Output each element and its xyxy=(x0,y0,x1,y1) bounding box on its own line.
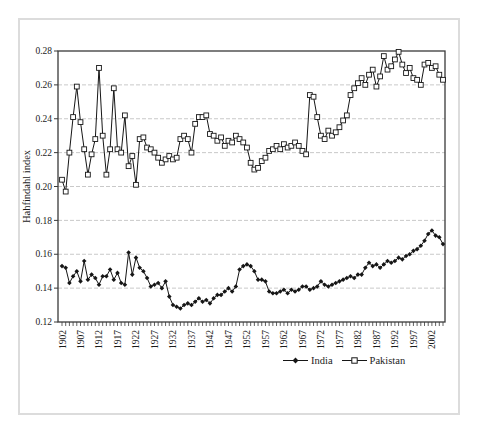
x-tick-label: 1992 xyxy=(390,330,400,349)
pakistan-marker xyxy=(378,74,383,79)
x-tick-label: 1937 xyxy=(187,330,197,349)
x-tick-label: 1977 xyxy=(335,330,345,349)
x-tick-label: 1957 xyxy=(261,330,271,349)
india-marker xyxy=(78,279,83,284)
pakistan-marker xyxy=(256,165,261,170)
pakistan-marker xyxy=(407,66,412,71)
pakistan-marker xyxy=(367,72,372,77)
pakistan-marker xyxy=(193,121,198,126)
pakistan-marker xyxy=(374,84,379,89)
pakistan-marker xyxy=(415,77,420,82)
pakistan-marker xyxy=(344,113,349,118)
pakistan-marker xyxy=(97,66,102,71)
pakistan-marker xyxy=(204,113,209,118)
pakistan-marker xyxy=(356,81,361,86)
pakistan-marker xyxy=(141,135,146,140)
pakistan-marker xyxy=(418,82,423,87)
pakistan-marker xyxy=(93,137,98,142)
pakistan-marker xyxy=(245,145,250,150)
pakistan-marker xyxy=(108,147,113,152)
pakistan-marker xyxy=(363,82,368,87)
pakistan-marker xyxy=(222,143,227,148)
pakistan-marker xyxy=(134,182,139,187)
pakistan-marker xyxy=(82,147,87,152)
india-marker xyxy=(359,272,364,277)
pakistan-marker xyxy=(315,115,320,120)
pakistan-marker xyxy=(381,54,386,59)
x-tick-label: 1987 xyxy=(372,330,382,349)
india-marker xyxy=(167,294,172,299)
x-tick-label: 1902 xyxy=(58,330,68,349)
pakistan-marker xyxy=(337,125,342,130)
pakistan-marker xyxy=(348,93,353,98)
y-tick-label: 0.22 xyxy=(35,148,52,158)
pakistan-marker xyxy=(100,133,105,138)
x-tick-label: 1927 xyxy=(150,330,160,349)
pakistan-marker xyxy=(211,133,216,138)
pakistan-marker xyxy=(322,137,327,142)
pakistan-marker xyxy=(333,130,338,135)
india-marker xyxy=(130,272,135,277)
pakistan-marker xyxy=(104,172,109,177)
y-tick-label: 0.12 xyxy=(35,317,52,327)
pakistan-marker xyxy=(278,147,283,152)
x-tick-label: 1982 xyxy=(353,330,363,349)
pakistan-marker xyxy=(404,71,409,76)
pakistan-marker xyxy=(219,135,224,140)
india-marker xyxy=(108,267,113,272)
india-marker xyxy=(97,282,102,287)
pakistan-marker xyxy=(119,150,124,155)
pakistan-marker xyxy=(311,94,316,99)
y-tick-label: 0.20 xyxy=(35,182,52,192)
y-tick-label: 0.14 xyxy=(35,283,52,293)
pakistan-marker xyxy=(230,140,235,145)
x-tick-label: 1907 xyxy=(76,330,86,349)
pakistan-marker xyxy=(85,172,90,177)
y-tick-label: 0.24 xyxy=(35,114,52,124)
india-marker xyxy=(104,274,109,279)
pakistan-marker xyxy=(352,86,357,91)
pakistan-marker xyxy=(89,152,94,157)
y-tick-label: 0.18 xyxy=(35,216,52,226)
x-tick-label: 1942 xyxy=(205,330,215,349)
y-tick-label: 0.28 xyxy=(35,46,52,56)
pakistan-marker xyxy=(370,67,375,72)
pakistan-marker xyxy=(263,155,268,160)
x-tick-label: 1947 xyxy=(224,330,234,349)
pakistan-marker xyxy=(426,60,431,65)
india-marker xyxy=(163,279,168,284)
chart-figure: 0.120.140.160.180.200.220.240.260.281902… xyxy=(0,0,477,435)
pakistan-marker xyxy=(185,137,190,142)
pakistan-marker xyxy=(304,152,309,157)
india-marker xyxy=(67,281,72,286)
pakistan-marker xyxy=(396,49,401,54)
pakistan-marker xyxy=(63,189,68,194)
x-tick-label: 1932 xyxy=(168,330,178,349)
plot-svg: 0.120.140.160.180.200.220.240.260.281902… xyxy=(0,0,477,435)
pakistan-marker xyxy=(389,64,394,69)
india-marker xyxy=(82,259,87,264)
pakistan-marker xyxy=(341,118,346,123)
pakistan-marker xyxy=(78,120,83,125)
india-marker xyxy=(134,255,139,260)
x-tick-label: 1997 xyxy=(409,330,419,349)
x-tick-label: 2002 xyxy=(427,330,437,349)
pakistan-marker xyxy=(130,154,135,159)
x-tick-label: 1962 xyxy=(279,330,289,349)
pakistan-marker xyxy=(326,128,331,133)
pakistan-marker xyxy=(126,164,131,169)
pakistan-marker xyxy=(437,72,442,77)
x-tick-label: 1917 xyxy=(113,330,123,349)
pakistan-legend-marker-icon xyxy=(342,356,367,365)
pakistan-marker xyxy=(111,86,116,91)
pakistan-marker xyxy=(296,143,301,148)
pakistan-marker xyxy=(441,77,446,82)
legend-item-pakistan: Pakistan xyxy=(342,355,406,366)
india-legend-marker-icon xyxy=(283,356,308,365)
pakistan-marker xyxy=(71,115,76,120)
pakistan-marker xyxy=(74,84,79,89)
legend-label-india: India xyxy=(311,355,333,366)
pakistan-marker xyxy=(174,155,179,160)
pakistan-marker xyxy=(60,177,65,182)
pakistan-marker xyxy=(359,76,364,81)
